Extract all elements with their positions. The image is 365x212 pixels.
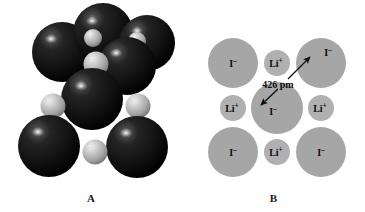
lithium-sphere xyxy=(83,140,108,165)
ion-iodide-bottom-left: I– xyxy=(208,127,258,177)
ion-label-charge: + xyxy=(279,145,283,154)
ion-label-charge: + xyxy=(323,101,327,110)
panel-a-spheres xyxy=(18,3,175,178)
ion-label-charge: – xyxy=(272,104,277,113)
iodide-sphere xyxy=(61,68,123,130)
iodide-sphere xyxy=(106,116,168,178)
ion-iodide-top-left: I– xyxy=(208,38,258,88)
panel-a-caption: A xyxy=(0,192,182,204)
ion-iodide-bottom-right: I– xyxy=(296,127,346,177)
figure-container: A I– Li+ xyxy=(0,0,365,212)
panel-a-canvas xyxy=(0,0,182,212)
ion-label-charge: – xyxy=(327,45,332,54)
ion-label-base: Li xyxy=(269,58,279,69)
iodide-sphere xyxy=(18,115,80,177)
panel-b-canvas: I– Li+ I– xyxy=(182,0,365,212)
panel-b: I– Li+ I– xyxy=(182,0,365,212)
panel-b-caption: B xyxy=(182,192,365,204)
ion-lithium-middle-right: Li+ xyxy=(308,95,334,121)
ion-lithium-middle-left: Li+ xyxy=(220,95,246,121)
ion-label-base: Li xyxy=(313,103,323,114)
ion-label-charge: – xyxy=(232,145,237,154)
ion-label-charge: + xyxy=(279,56,283,65)
ion-label-charge: + xyxy=(235,101,239,110)
ion-label-charge: – xyxy=(232,56,237,65)
ion-label-base: Li xyxy=(269,147,279,158)
lithium-sphere xyxy=(41,94,66,119)
ion-label-charge: – xyxy=(320,145,325,154)
panel-b-ions: I– Li+ I– xyxy=(208,38,346,177)
ion-lithium-top-center: Li+ xyxy=(264,50,290,76)
panel-a: A xyxy=(0,0,182,212)
ion-label-base: Li xyxy=(225,103,235,114)
ion-lithium-bottom-center: Li+ xyxy=(264,139,290,165)
distance-value-label: 426 pm xyxy=(262,79,294,90)
lithium-sphere xyxy=(126,94,151,119)
lithium-sphere xyxy=(84,29,102,47)
